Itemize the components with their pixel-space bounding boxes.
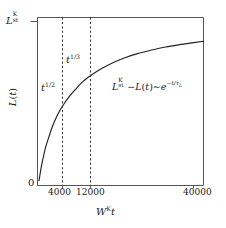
y-tick-label-saturation: LKst <box>6 14 22 26</box>
annotation-regime-cbrt: t1/3 <box>66 54 80 65</box>
annotation-saturation-law: LKst−L(t)∼e−t/τL <box>112 80 182 91</box>
x-tick-label-4000: 4000 <box>48 188 71 197</box>
x-axis-title: WKt <box>96 206 115 217</box>
x-tick-label-40000: 40000 <box>183 188 212 197</box>
y-tick-label-zero: 0 <box>28 178 34 188</box>
annotation-regime-sqrt: t1/2 <box>41 82 55 93</box>
x-tick-label-12000: 12000 <box>76 188 105 197</box>
figure-container: LKst 0 L(t) 4000 12000 40000 WKt t1/2 t1… <box>0 0 226 228</box>
data-curve-L-of-t <box>39 41 203 180</box>
y-axis-title: L(t) <box>8 75 18 119</box>
